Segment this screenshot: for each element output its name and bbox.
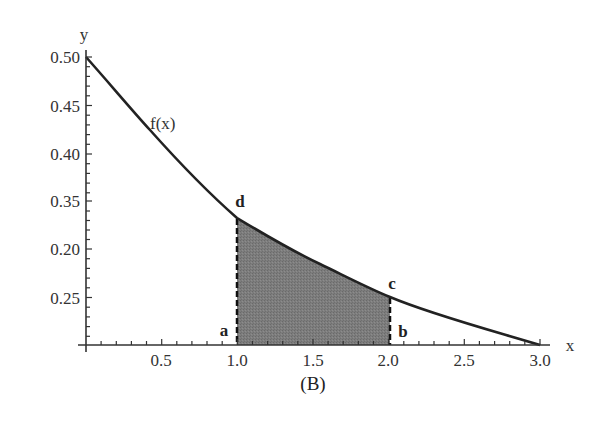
x-tick-label: 1.5 bbox=[302, 351, 323, 370]
point-label-c: c bbox=[388, 274, 396, 293]
point-label-b: b bbox=[398, 322, 407, 341]
x-tick-label: 2.0 bbox=[377, 351, 398, 370]
point-label-d: d bbox=[235, 192, 245, 211]
y-tick-label: 0.25 bbox=[50, 289, 80, 308]
y-tick-label: 0.40 bbox=[50, 145, 80, 164]
y-tick-label: 0.50 bbox=[50, 48, 80, 67]
y-tick-label: 0.35 bbox=[50, 192, 80, 211]
x-tick-label: 2.5 bbox=[453, 351, 474, 370]
figure-caption: (B) bbox=[300, 373, 325, 395]
integral-area-chart: 0.50 0.45 0.40 0.35 0.20 0.25 0.5 1.0 1.… bbox=[0, 0, 609, 430]
x-axis-title: x bbox=[566, 336, 575, 355]
x-tick-label: 0.5 bbox=[150, 351, 171, 370]
point-label-a: a bbox=[220, 321, 229, 340]
y-axis-title: y bbox=[80, 25, 89, 44]
x-tick-label: 3.0 bbox=[529, 351, 550, 370]
y-tick-label: 0.20 bbox=[50, 240, 80, 259]
curve-label: f(x) bbox=[150, 114, 175, 133]
x-tick-label: 1.0 bbox=[226, 351, 247, 370]
y-axis-ticks bbox=[86, 57, 92, 336]
y-tick-label: 0.45 bbox=[50, 97, 80, 116]
shaded-area bbox=[237, 218, 390, 345]
